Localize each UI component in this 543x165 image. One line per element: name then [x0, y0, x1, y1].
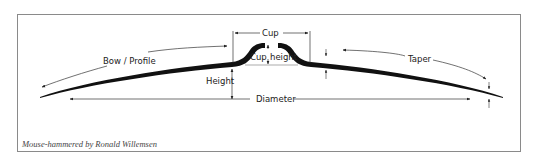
height-label: Height	[206, 76, 235, 86]
cup-label: Cup	[262, 28, 279, 38]
cup-height-label-right: height	[270, 52, 298, 62]
bow-profile-label: Bow / Profile	[103, 56, 156, 66]
diameter-annotation: Diameter	[70, 94, 470, 104]
taper-label: Taper	[407, 54, 432, 64]
cup-height-label-left: Cup	[250, 52, 267, 62]
diameter-label: Diameter	[256, 94, 296, 104]
credit-text: Mouse-hammered by Ronald Willemsen	[22, 139, 157, 149]
height-annotation: Height	[206, 69, 235, 99]
